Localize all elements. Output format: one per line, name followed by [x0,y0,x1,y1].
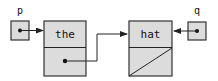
node-hat: hat [129,21,172,76]
node-the: the [44,21,127,76]
pointer-q-label: q [194,5,200,16]
pointer-p-label: p [17,5,23,16]
node-hat-value: hat [141,28,161,41]
linked-list-diagram: p the hat q [0,0,218,81]
pointer-q: q [174,5,206,40]
pointer-p: p [11,5,43,40]
node-the-value: the [55,28,75,41]
